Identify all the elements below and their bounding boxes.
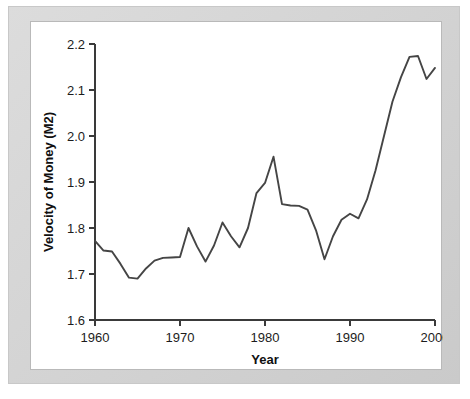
- x-axis-title: Year: [251, 352, 278, 367]
- figure-frame: 1.61.71.81.92.02.12.2 196019701980199020…: [8, 6, 460, 384]
- y-tick-label: 1.8: [67, 221, 85, 236]
- y-tick-label: 2.1: [67, 83, 85, 98]
- figure-root: 1.61.71.81.92.02.12.2 196019701980199020…: [0, 0, 470, 399]
- x-tick-label: 1990: [336, 330, 365, 345]
- x-tick-label: 1960: [81, 330, 110, 345]
- velocity-series-line: [95, 56, 435, 279]
- y-axis-title: Velocity of Money (M2): [41, 112, 56, 252]
- y-tick-label: 1.6: [67, 313, 85, 328]
- y-tick-label: 1.7: [67, 267, 85, 282]
- x-axis-ticks: 19601970198019902000: [81, 320, 443, 345]
- y-axis-ticks: 1.61.71.81.92.02.12.2: [67, 37, 95, 328]
- chart-panel: 1.61.71.81.92.02.12.2 196019701980199020…: [30, 21, 442, 370]
- velocity-of-money-line-chart: 1.61.71.81.92.02.12.2 196019701980199020…: [31, 22, 443, 371]
- x-tick-label: 2000: [421, 330, 443, 345]
- x-tick-label: 1980: [251, 330, 280, 345]
- y-tick-label: 2.2: [67, 37, 85, 52]
- y-tick-label: 1.9: [67, 175, 85, 190]
- x-tick-label: 1970: [166, 330, 195, 345]
- y-tick-label: 2.0: [67, 129, 85, 144]
